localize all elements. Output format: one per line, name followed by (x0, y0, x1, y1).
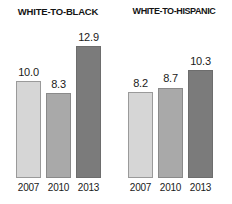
value-label-white-to-black-2013: 12.9 (73, 31, 104, 43)
bar-white-to-black-2013 (76, 46, 101, 178)
value-label-white-to-hispanic-2013: 10.3 (185, 55, 216, 67)
year-label-white-to-hispanic-2013: 2013 (184, 182, 217, 193)
dual-bar-chart-figure: WHITE-TO-BLACK 10.0 2007 8.3 2010 12.9 2… (0, 0, 232, 204)
year-label-white-to-hispanic-2010: 2010 (154, 182, 187, 193)
bar-white-to-black-2007 (16, 81, 41, 178)
bar-white-to-hispanic-2013 (188, 70, 213, 178)
plot-area-white-to-black: 10.0 2007 8.3 2010 12.9 2013 (0, 0, 116, 204)
year-label-white-to-black-2010: 2010 (42, 182, 75, 193)
chart-panel-white-to-black: WHITE-TO-BLACK 10.0 2007 8.3 2010 12.9 2… (0, 0, 116, 204)
value-label-white-to-black-2010: 8.3 (43, 78, 74, 90)
value-label-white-to-hispanic-2010: 8.7 (155, 72, 186, 84)
chart-panel-white-to-hispanic: WHITE-TO-HISPANIC 8.2 2007 8.7 2010 10.3… (116, 0, 232, 204)
bar-white-to-black-2010 (46, 93, 71, 178)
year-label-white-to-hispanic-2007: 2007 (124, 182, 157, 193)
year-label-white-to-black-2013: 2013 (72, 182, 105, 193)
value-label-white-to-black-2007: 10.0 (13, 66, 44, 78)
value-label-white-to-hispanic-2007: 8.2 (125, 77, 156, 89)
plot-area-white-to-hispanic: 8.2 2007 8.7 2010 10.3 2013 (116, 0, 232, 204)
year-label-white-to-black-2007: 2007 (12, 182, 45, 193)
bar-white-to-hispanic-2007 (128, 92, 153, 178)
bar-white-to-hispanic-2010 (158, 88, 183, 178)
